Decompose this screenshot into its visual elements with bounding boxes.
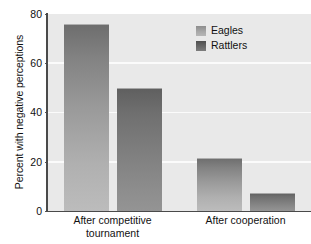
y-axis-line [46,13,48,212]
bar-eagles-after-cooperation [197,158,242,211]
plot-area: Eagles Rattlers [47,14,311,211]
y-tick-label-20: 20 [16,157,42,167]
legend-item-eagles: Eagles [196,24,276,38]
x-label-after-cooperation: After cooperation [180,214,311,227]
chart-legend: Eagles Rattlers [196,24,276,54]
bar-rattlers-after-cooperation [250,193,295,211]
x-label-line2: tournament [47,227,178,240]
y-axis-ticks: 80 60 40 20 0 [14,0,42,244]
legend-item-rattlers: Rattlers [196,39,276,53]
bar-top-highlight [117,88,162,89]
x-label-line1: After competitive [73,214,151,226]
legend-label-eagles: Eagles [211,24,243,37]
x-axis-labels: After competitive tournament After coope… [47,214,311,244]
legend-swatch-rattlers-icon [196,41,206,51]
bar-eagles-after-competitive-tournament [64,24,109,211]
bar-top-highlight [250,193,295,194]
legend-label-rattlers: Rattlers [211,39,247,52]
y-tick-label-60: 60 [16,58,42,68]
y-tick-label-40: 40 [16,107,42,117]
x-axis-line [46,211,311,213]
x-label-line1: After cooperation [206,214,286,226]
bar-top-highlight [197,158,242,159]
legend-swatch-eagles-icon [196,26,206,36]
bar-rattlers-after-competitive-tournament [117,88,162,211]
y-tick-label-0: 0 [16,206,42,216]
x-label-after-competitive-tournament: After competitive tournament [47,214,178,239]
bar-chart: Percent with negative perceptions 80 60 … [0,0,311,244]
bar-top-highlight [64,24,109,25]
y-tick-label-80: 80 [16,9,42,19]
